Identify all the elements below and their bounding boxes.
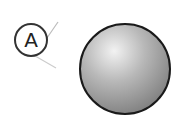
diagram-graphics (0, 0, 184, 130)
label-a-callout: A (14, 23, 48, 57)
sphere (80, 24, 170, 114)
label-a-text: A (24, 30, 38, 50)
diagram-canvas: A (0, 0, 184, 130)
